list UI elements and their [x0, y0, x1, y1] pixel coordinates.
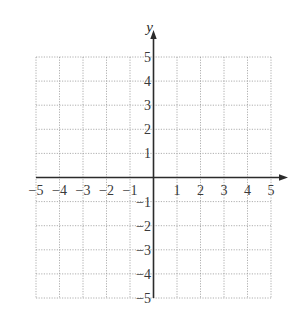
- y-tick-label: 3: [144, 98, 151, 113]
- y-tick-label: −4: [136, 267, 151, 282]
- x-tick-label: 4: [244, 183, 251, 198]
- y-tick-label: 5: [144, 50, 151, 65]
- axes: [36, 30, 288, 298]
- y-tick-label: −1: [136, 195, 151, 210]
- y-tick-label: 2: [144, 122, 151, 137]
- x-tick-label: 5: [268, 183, 275, 198]
- x-tick-labels: −5−4−3−2−112345: [29, 183, 275, 198]
- x-tick-label: −4: [52, 183, 67, 198]
- x-tick-label: 2: [197, 183, 204, 198]
- x-tick-label: 1: [174, 183, 181, 198]
- x-axis-arrow-icon: [279, 174, 288, 180]
- coordinate-plane: y −5−4−3−2−112345 −5−4−3−2−112345: [0, 0, 301, 323]
- y-tick-label: 4: [144, 74, 151, 89]
- y-tick-label: −2: [136, 219, 151, 234]
- y-tick-label: −5: [136, 291, 151, 306]
- x-tick-label: −2: [99, 183, 114, 198]
- y-tick-label: 1: [144, 146, 151, 161]
- x-tick-label: −3: [76, 183, 91, 198]
- x-tick-label: −5: [29, 183, 44, 198]
- x-tick-label: 3: [221, 183, 228, 198]
- y-axis-label: y: [144, 19, 153, 35]
- y-tick-label: −3: [136, 243, 151, 258]
